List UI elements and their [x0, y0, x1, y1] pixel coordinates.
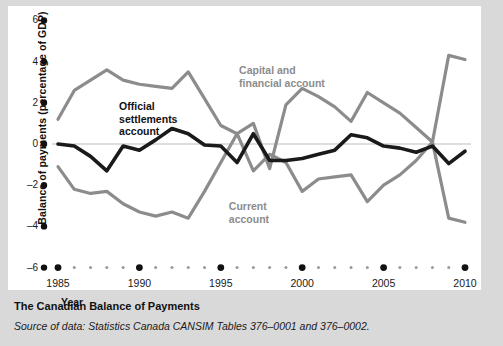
series-label-official-settlements-account: Official settlements account — [119, 100, 177, 138]
x-tick-label: 1995 — [199, 277, 243, 289]
x-tick-label: 2010 — [443, 277, 487, 289]
series-label-current-account: Current account — [229, 200, 269, 225]
capital-label-line1: Capital and — [239, 64, 325, 77]
x-tick-label: 1990 — [117, 277, 161, 289]
figure-page: Balance of payments (percentage of GDP) … — [0, 0, 503, 346]
y-tick-label: –6 — [16, 262, 38, 273]
official-label-line2: settlements — [119, 113, 177, 126]
current-label-line2: account — [229, 213, 269, 226]
y-tick-label: 2 — [16, 97, 38, 108]
figure-caption-title: The Canadian Balance of Payments — [14, 300, 200, 312]
figure-caption-source: Source of data: Statistics Canada CANSIM… — [14, 320, 370, 332]
y-tick-label: –4 — [16, 220, 38, 231]
y-tick-dots — [41, 17, 47, 271]
capital-label-line2: financial account — [239, 77, 325, 90]
y-tick-label: 4 — [16, 56, 38, 67]
x-tick-label: 1985 — [36, 277, 80, 289]
official-label-line1: Official — [119, 100, 177, 113]
y-tick-label: –2 — [16, 179, 38, 190]
chart-card: Balance of payments (percentage of GDP) … — [8, 6, 481, 290]
official-label-line3: account — [119, 125, 177, 138]
series-label-capital-financial-account: Capital and financial account — [239, 64, 325, 89]
x-tick-label: 2005 — [362, 277, 406, 289]
y-tick-label: 0 — [16, 138, 38, 149]
x-tick-label: 2000 — [280, 277, 324, 289]
current-label-line1: Current — [229, 200, 269, 213]
x-tick-dots — [55, 264, 469, 271]
y-tick-label: 6 — [16, 14, 38, 25]
line-chart — [8, 6, 481, 290]
